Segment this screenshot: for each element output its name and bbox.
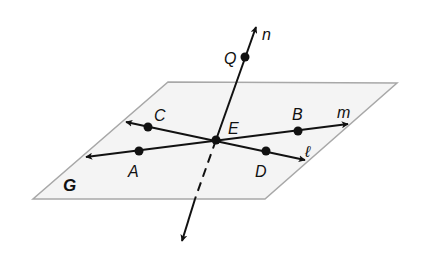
label-a: A xyxy=(127,163,139,180)
point-q xyxy=(241,53,250,62)
point-c xyxy=(144,123,153,132)
label-l: ℓ xyxy=(304,143,311,160)
label-e: E xyxy=(228,120,239,137)
point-b xyxy=(294,127,303,136)
label-plane-g: G xyxy=(63,176,76,195)
geometry-diagram: n Q C E B m ℓ A D G xyxy=(0,0,421,258)
label-q: Q xyxy=(224,50,236,67)
point-e xyxy=(212,136,221,145)
line-n-lower-segment xyxy=(182,199,195,241)
label-b: B xyxy=(292,106,303,123)
label-m: m xyxy=(337,104,350,121)
point-a xyxy=(135,147,144,156)
label-n: n xyxy=(262,26,271,43)
label-c: C xyxy=(154,107,166,124)
point-d xyxy=(262,147,271,156)
label-d: D xyxy=(255,163,267,180)
